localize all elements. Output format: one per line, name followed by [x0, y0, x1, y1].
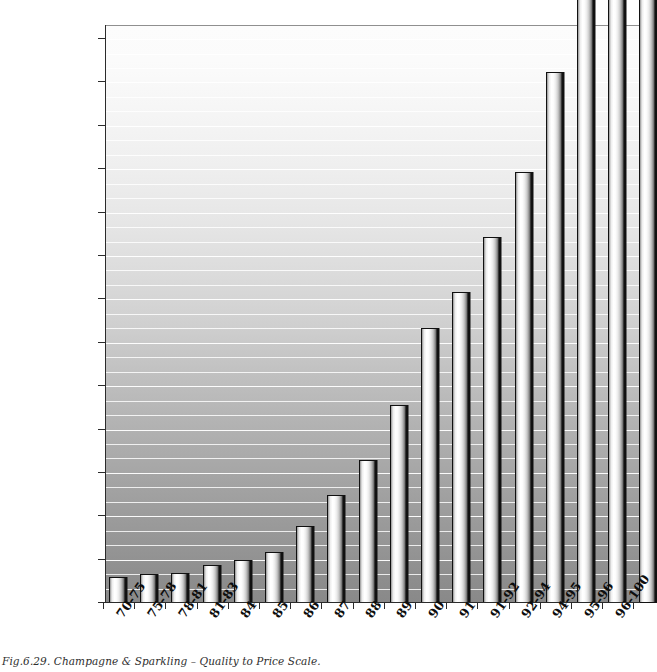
bar-91	[452, 292, 469, 603]
gridline	[106, 328, 657, 329]
gridline	[106, 516, 657, 517]
gridline	[106, 386, 657, 387]
y-axis-tick-mark	[98, 342, 105, 343]
gridline	[106, 343, 657, 344]
y-axis-tick-mark	[98, 212, 105, 213]
x-axis-tick-mark	[509, 603, 510, 609]
gridline	[106, 372, 657, 373]
bar-92-94	[515, 172, 532, 603]
gridline	[106, 458, 657, 459]
x-axis-tick-mark	[321, 603, 322, 609]
gridline	[106, 227, 657, 228]
bar-91-92	[483, 237, 500, 603]
y-axis-tick-mark	[98, 515, 105, 516]
bar-88	[359, 460, 376, 604]
gridline	[106, 140, 657, 141]
x-axis-tick-mark	[415, 603, 416, 609]
gridline	[106, 487, 657, 488]
chart-plot-area	[105, 25, 657, 603]
gridline	[106, 560, 657, 561]
y-axis-tick-mark	[98, 168, 105, 169]
gridline	[106, 444, 657, 445]
bar-86	[296, 526, 313, 603]
gridline	[106, 415, 657, 416]
bar-85	[265, 552, 282, 603]
x-axis-tick-mark	[633, 603, 634, 609]
y-axis-tick-mark	[98, 472, 105, 473]
gridline	[106, 473, 657, 474]
gridline	[106, 97, 657, 98]
x-axis-tick-mark	[103, 603, 104, 609]
x-axis-tick-mark	[353, 603, 354, 609]
x-axis-tick-mark	[165, 603, 166, 609]
bar-95-96	[577, 0, 594, 603]
x-axis-tick-mark	[477, 603, 478, 609]
bar-89	[390, 405, 407, 603]
gridline	[106, 39, 657, 40]
gridline	[106, 545, 657, 546]
gridline	[106, 357, 657, 358]
gridline	[106, 169, 657, 170]
gridline	[106, 54, 657, 55]
x-axis-tick-mark	[197, 603, 198, 609]
gridline	[106, 242, 657, 243]
gridline	[106, 401, 657, 402]
x-axis-tick-mark	[228, 603, 229, 609]
x-axis-tick-mark	[446, 603, 447, 609]
x-axis-tick-mark	[290, 603, 291, 609]
gridline	[106, 68, 657, 69]
gridline	[106, 314, 657, 315]
gridline	[106, 270, 657, 271]
gridline	[106, 430, 657, 431]
gridline	[106, 213, 657, 214]
y-axis-line	[105, 25, 106, 603]
bar-partial-clipped	[639, 0, 656, 603]
x-axis-tick-mark	[134, 603, 135, 609]
gridline	[106, 299, 657, 300]
y-axis-tick-mark	[98, 125, 105, 126]
y-axis-tick-mark	[98, 429, 105, 430]
y-axis-tick-mark	[98, 255, 105, 256]
gridline	[106, 184, 657, 185]
bar-84	[234, 560, 251, 603]
y-axis-tick-mark	[98, 298, 105, 299]
y-axis-tick-mark	[98, 81, 105, 82]
x-axis-tick-mark	[571, 603, 572, 609]
figure-caption: Fig.6.29. Champagne & Sparkling – Qualit…	[2, 655, 321, 667]
y-axis-tick-mark	[98, 385, 105, 386]
y-axis-tick-mark	[98, 559, 105, 560]
y-axis-tick-mark	[98, 38, 105, 39]
bar-96-100	[608, 0, 625, 603]
gridline	[106, 82, 657, 83]
gridline	[106, 111, 657, 112]
bar-90	[421, 328, 438, 603]
gridline	[106, 531, 657, 532]
x-axis-tick-mark	[259, 603, 260, 609]
gridlines-group	[106, 26, 657, 603]
x-axis-tick-mark	[602, 603, 603, 609]
gridline	[106, 256, 657, 257]
bar-87	[327, 495, 344, 603]
gridline	[106, 126, 657, 127]
gridline	[106, 574, 657, 575]
gridline	[106, 285, 657, 286]
gridline	[106, 502, 657, 503]
x-axis-tick-mark	[384, 603, 385, 609]
gridline	[106, 155, 657, 156]
gridline	[106, 198, 657, 199]
bar-94-95	[546, 72, 563, 603]
x-axis-tick-mark	[540, 603, 541, 609]
